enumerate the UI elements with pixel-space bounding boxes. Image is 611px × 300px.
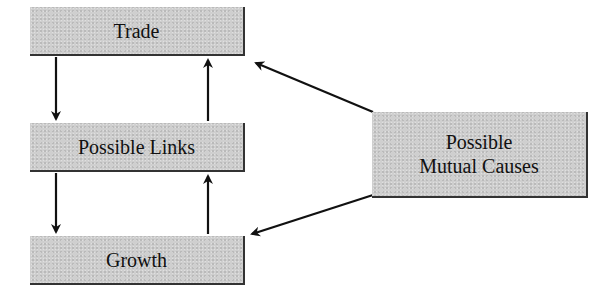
node-possible-links: Possible Links (30, 123, 245, 172)
node-causes-label-line1: Possible (446, 130, 513, 154)
node-causes-label-line2: Mutual Causes (419, 154, 538, 178)
node-possible-links-label: Possible Links (78, 135, 195, 159)
node-growth-label: Growth (106, 248, 167, 272)
node-trade-label: Trade (114, 19, 160, 43)
node-possible-mutual-causes: Possible Mutual Causes (372, 112, 588, 198)
node-growth: Growth (30, 236, 245, 285)
arrow-causes-to-growth (252, 195, 373, 234)
node-trade: Trade (30, 7, 245, 56)
arrow-causes-to-trade (256, 63, 373, 112)
